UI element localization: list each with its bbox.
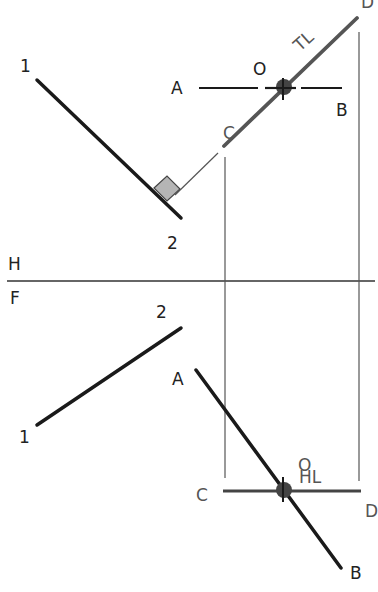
front-label-a: A	[172, 369, 184, 389]
front-label-d: D	[365, 501, 378, 521]
top-line-cd	[224, 18, 357, 146]
front-label-o: O	[298, 455, 311, 475]
top-label-tl: TL	[289, 26, 318, 55]
fold-label-f: F	[10, 288, 20, 308]
top-label-1: 1	[20, 56, 31, 76]
top-label-a: A	[171, 78, 183, 98]
top-label-d: D	[361, 0, 374, 12]
fold-label-h: H	[8, 254, 21, 274]
front-line-12	[37, 328, 181, 425]
top-label-c: C	[223, 123, 235, 143]
front-label-b: B	[350, 563, 362, 583]
top-perpendicular-thin	[175, 153, 218, 195]
top-label-o: O	[253, 59, 266, 79]
top-label-b: B	[336, 100, 348, 120]
top-label-2: 2	[167, 233, 178, 253]
front-label-c: C	[196, 485, 208, 505]
front-label-1: 1	[19, 427, 30, 447]
front-label-2: 2	[156, 302, 167, 322]
top-line-12	[37, 80, 181, 218]
descriptive-geometry-diagram: H F 1 2 C D TL A B O 2 1 A B C D HL O	[0, 0, 378, 592]
